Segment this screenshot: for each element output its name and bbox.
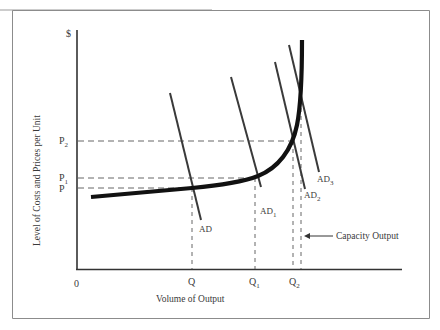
origin-label: 0 [74,278,79,289]
capacity-output-diagram: $ 0 P2 P1 P Q Q1 Q2 AD AD1 AD2 AD3 Capac… [0,0,440,330]
x-axis-title: Volume of Output [156,294,225,304]
y-axis-dollar-label: $ [66,28,71,39]
ad-line [170,93,201,220]
ad1-label: AD1 [260,206,277,219]
q-label: Q [188,276,196,287]
capacity-arrow [304,233,333,239]
price-guides [78,141,293,188]
p-label: P [59,183,65,194]
ad3-line [289,45,319,172]
p2-label: P2 [59,135,69,149]
average-cost-curve [91,40,302,197]
figure-frame [13,11,430,319]
y-axis-title: Level of Costs and Prices per Unit [32,115,42,246]
ad1-line [231,77,261,187]
capacity-output-label: Capacity Output [336,231,399,241]
q1-label: Q1 [249,276,260,290]
ad-label: AD [199,224,212,234]
ad2-label: AD2 [304,190,321,203]
q2-label: Q2 [289,276,300,290]
ad3-label: AD3 [317,174,334,187]
